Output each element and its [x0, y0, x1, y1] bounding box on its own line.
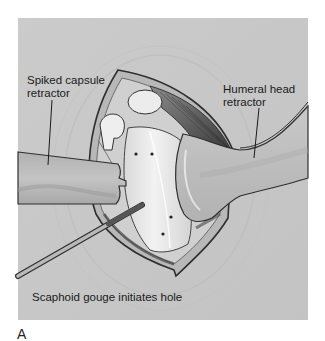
label-line: Humeral head — [223, 83, 295, 96]
label-line: retractor — [223, 96, 295, 109]
panel-letter: A — [17, 326, 26, 341]
label-humeral-head-retractor: Humeral head retractor — [223, 83, 295, 109]
label-line: Spiked capsule — [27, 74, 105, 87]
label-line: retractor — [27, 87, 105, 100]
label-spiked-capsule-retractor: Spiked capsule retractor — [27, 74, 105, 100]
label-scaphoid-gouge: Scaphoid gouge initiates hole — [32, 291, 182, 304]
surgical-illustration: Spiked capsule retractor Humeral head re… — [0, 0, 325, 341]
illustration-canvas — [0, 0, 325, 341]
